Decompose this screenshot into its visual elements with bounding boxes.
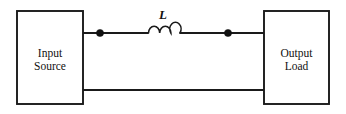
- circuit-schematic-canvas: L Input Source Output Load: [0, 0, 346, 114]
- junction-node-left: [96, 29, 103, 36]
- input-source-label-line2: Source: [34, 60, 66, 72]
- output-load-label-line2: Load: [285, 60, 309, 72]
- circuit-diagram: L Input Source Output Load: [0, 0, 346, 114]
- output-load-label-line1: Output: [281, 47, 314, 60]
- inductor-coil-icon: [148, 22, 181, 33]
- inductor-label: L: [158, 7, 167, 22]
- junction-node-right: [224, 29, 231, 36]
- input-source-label-line1: Input: [38, 47, 63, 60]
